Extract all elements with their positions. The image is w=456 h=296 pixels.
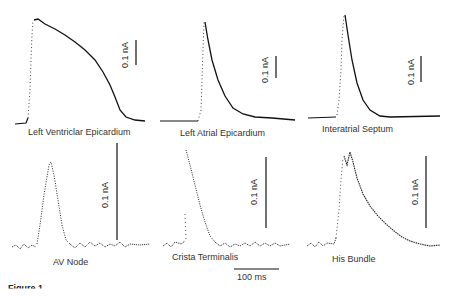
- trace-left-atrial-epicardium: [160, 22, 295, 121]
- trace-his-bundle: [307, 152, 440, 247]
- time-scale-label: 100 ms: [237, 272, 267, 282]
- current-scale-label: 0.1 nA: [100, 182, 110, 208]
- panel-label-left-atrial-epicardium: Left Atrial Epicardium: [180, 128, 265, 138]
- current-scale-label: 0.1 nA: [249, 179, 259, 205]
- current-scale-label: 0.1 nA: [260, 57, 270, 83]
- panel-label-crista-terminalis: Crista Terminalis: [172, 252, 238, 262]
- trace-crista-terminalis: [163, 150, 290, 247]
- trace-av-node: [12, 162, 150, 249]
- trace-interatrial-septum: [308, 15, 440, 118]
- panel-label-av-node: AV Node: [53, 257, 88, 267]
- panel-label-left-ventricular-epicardium: Left Ventriclar Epicardium: [28, 127, 131, 137]
- current-scale-label: 0.1 nA: [406, 59, 416, 85]
- current-scale-label: 0.1 nA: [120, 42, 130, 68]
- trace-left-ventricular-epicardium: [15, 19, 145, 124]
- current-scale-label: 0.1 nA: [410, 179, 420, 205]
- panel-label-his-bundle: His Bundle: [332, 254, 376, 264]
- panel-label-interatrial-septum: Interatrial Septum: [322, 124, 393, 134]
